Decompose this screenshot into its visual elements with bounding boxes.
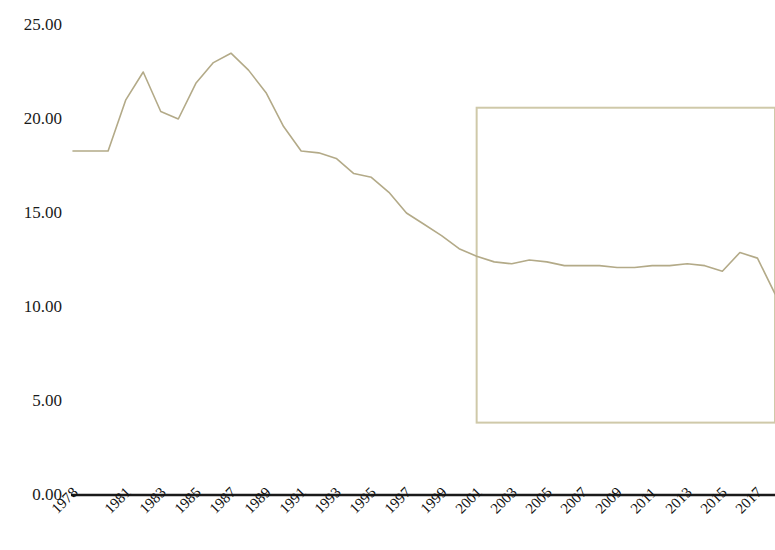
x-axis-tick-label: 1989 [242,485,274,517]
x-axis-tick-label: 1985 [172,485,204,517]
x-axis-tick-label: 2015 [698,485,730,517]
x-axis-tick-label: 1999 [418,485,450,517]
line-chart: 25.0020.0015.0010.005.000.00 19781981198… [0,0,775,550]
x-axis-tick-label: 1987 [207,485,239,517]
x-axis-tick-label: 2011 [628,485,659,516]
x-axis-tick-label: 2013 [663,485,695,517]
x-axis-tick-label: 2001 [453,485,485,517]
x-axis-tick-label: 2005 [523,485,555,517]
x-axis-tick-label: 2017 [733,485,765,517]
x-axis-tick-label: 1981 [102,485,134,517]
x-axis-tick-label: 1978 [49,485,81,517]
x-axis-tick-label: 2009 [593,485,625,517]
x-axis-tick-label: 1997 [382,485,414,517]
x-axis-tick-label: 1995 [347,485,379,517]
x-axis-tick-label: 2007 [558,485,590,517]
x-axis-tick-label: 2003 [488,485,520,517]
x-axis-tick-label: 1991 [277,485,309,517]
x-axis-tick-label: 1983 [137,485,169,517]
x-axis-tick-label: 1993 [312,485,344,517]
x-axis: 1978198119831985198719891991199319951997… [0,0,775,550]
